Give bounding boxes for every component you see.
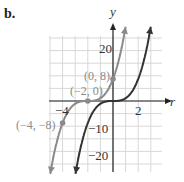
point-label-0-8: (0, 8): [84, 70, 110, 82]
y-tick-neg20: −20: [88, 149, 108, 162]
y-tick-20: 20: [99, 42, 112, 55]
point-label-neg4-neg8: (−4, −8): [16, 119, 56, 131]
x-tick-neg4: −4: [55, 104, 69, 117]
y-axis-label: y: [110, 5, 116, 18]
point-label-neg2-0: (−2, 0): [70, 85, 103, 97]
x-axis-label: r: [170, 95, 175, 108]
y-tick-neg10: −10: [88, 122, 108, 135]
x-tick-2: 2: [135, 104, 142, 117]
